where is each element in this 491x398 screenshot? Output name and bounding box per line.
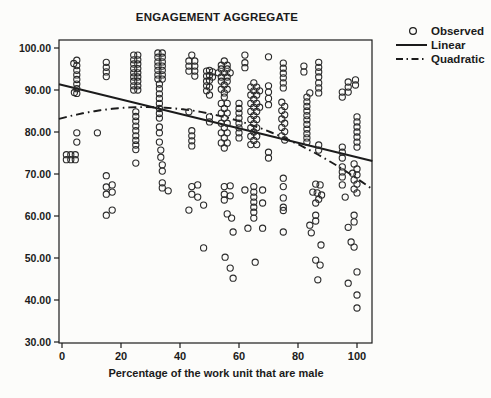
observed-point xyxy=(227,265,233,271)
observed-point xyxy=(189,52,195,58)
observed-point xyxy=(221,94,227,100)
observed-point xyxy=(345,224,351,230)
observed-point xyxy=(265,95,271,101)
observed-points xyxy=(63,50,360,311)
axis-ticks: 020406080100100.0090.0080.0070.0060.0050… xyxy=(19,42,366,362)
observed-point xyxy=(351,244,357,250)
observed-point xyxy=(245,225,251,231)
y-tick-label: 40.00 xyxy=(25,294,51,306)
observed-point xyxy=(342,194,348,200)
observed-point xyxy=(229,215,235,221)
quadratic-trend-line xyxy=(59,107,372,189)
observed-point xyxy=(317,182,323,188)
legend-label-observed: Observed xyxy=(431,25,484,37)
x-tick-label: 20 xyxy=(115,350,127,362)
observed-point xyxy=(135,87,141,93)
legend-item-quadratic: Quadratic xyxy=(396,53,485,65)
y-tick-label: 70.00 xyxy=(25,168,51,180)
observed-point xyxy=(315,277,321,283)
observed-point xyxy=(189,191,195,197)
legend: Observed Linear Quadratic xyxy=(396,25,485,65)
observed-point xyxy=(242,187,248,193)
observed-point xyxy=(158,154,164,160)
legend-label-quadratic: Quadratic xyxy=(431,53,485,65)
observed-point xyxy=(221,145,227,151)
x-tick-label: 100 xyxy=(348,350,366,362)
observed-point xyxy=(103,184,109,190)
observed-point xyxy=(103,173,109,179)
observed-point xyxy=(265,102,271,108)
observed-point xyxy=(159,162,165,168)
observed-point xyxy=(159,168,165,174)
observed-point xyxy=(94,130,100,136)
y-tick-label: 90.00 xyxy=(25,84,51,96)
observed-point xyxy=(133,160,139,166)
observed-point xyxy=(265,89,271,95)
observed-point xyxy=(280,195,286,201)
fit-lines xyxy=(59,84,372,189)
observed-point xyxy=(260,225,266,231)
observed-point xyxy=(133,147,139,153)
observed-point xyxy=(308,230,314,236)
x-tick-label: 80 xyxy=(292,350,304,362)
observed-point xyxy=(242,52,248,58)
observed-point xyxy=(252,259,258,265)
y-tick-label: 50.00 xyxy=(25,252,51,264)
observed-point xyxy=(186,207,192,213)
y-tick-label: 80.00 xyxy=(25,126,51,138)
y-tick-label: 60.00 xyxy=(25,210,51,222)
observed-point xyxy=(251,215,257,221)
observed-point xyxy=(221,184,227,190)
observed-point xyxy=(354,292,360,298)
observed-point xyxy=(189,184,195,190)
observed-point xyxy=(195,194,201,200)
observed-point xyxy=(103,191,109,197)
observed-point xyxy=(265,83,271,89)
chart-figure: ENGAGEMENT AGGREGATE 020406080100100.009… xyxy=(0,0,491,398)
observed-point xyxy=(230,229,236,235)
legend-label-linear: Linear xyxy=(431,39,466,51)
observed-point xyxy=(103,74,109,80)
observed-point xyxy=(280,175,286,181)
observed-point xyxy=(260,200,266,206)
observed-point xyxy=(345,280,351,286)
x-tick-label: 0 xyxy=(59,350,65,362)
x-axis-title: Percentage of the work unit that are mal… xyxy=(108,367,323,379)
observed-point xyxy=(280,229,286,235)
observed-point xyxy=(222,254,228,260)
observed-point xyxy=(307,222,313,228)
scatter-plot: ENGAGEMENT AGGREGATE 020406080100100.009… xyxy=(0,0,491,398)
observed-point xyxy=(103,212,109,218)
observed-point xyxy=(201,245,207,251)
observed-point xyxy=(354,269,360,275)
observed-point xyxy=(339,182,345,188)
observed-point xyxy=(227,183,233,189)
observed-point xyxy=(260,187,266,193)
observed-point xyxy=(156,115,162,121)
observed-point xyxy=(158,147,164,153)
observed-point xyxy=(109,189,115,195)
observed-point xyxy=(318,242,324,248)
observed-point xyxy=(109,182,115,188)
x-tick-label: 60 xyxy=(233,350,245,362)
observed-point xyxy=(351,219,357,225)
observed-marker-icon xyxy=(410,28,417,35)
chart-title: ENGAGEMENT AGGREGATE xyxy=(136,11,299,23)
legend-item-linear: Linear xyxy=(396,39,466,51)
y-tick-label: 30.00 xyxy=(25,336,51,348)
observed-point xyxy=(230,275,236,281)
x-tick-label: 40 xyxy=(174,350,186,362)
y-tick-label: 100.00 xyxy=(19,42,51,54)
observed-point xyxy=(109,207,115,213)
observed-point xyxy=(195,182,201,188)
observed-point xyxy=(201,202,207,208)
observed-point xyxy=(74,139,80,145)
observed-point xyxy=(227,193,233,199)
observed-point xyxy=(351,212,357,218)
observed-point xyxy=(265,54,271,60)
observed-point xyxy=(74,130,80,136)
observed-point xyxy=(317,262,323,268)
observed-point xyxy=(156,139,162,145)
observed-point xyxy=(280,184,286,190)
observed-point xyxy=(354,305,360,311)
